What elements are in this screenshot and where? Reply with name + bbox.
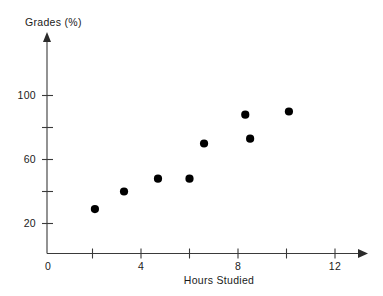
data-point-series	[91, 107, 293, 213]
x-axis-title: Hours Studied	[184, 274, 254, 286]
data-point	[246, 135, 254, 143]
data-point	[185, 175, 193, 183]
x-tick-label-8: 8	[235, 260, 241, 272]
data-point	[241, 111, 249, 119]
data-point	[120, 187, 128, 195]
chart-canvas: 100 60 20 0 4 8 12 Grades (%) Hours Stud…	[0, 0, 383, 296]
data-point	[200, 139, 208, 147]
data-point	[91, 205, 99, 213]
data-point	[285, 107, 293, 115]
y-tick-label-60: 60	[24, 153, 36, 165]
y-axis-arrowhead	[43, 32, 51, 42]
x-tick-label-12: 12	[329, 260, 341, 272]
y-axis-title: Grades (%)	[25, 16, 82, 28]
data-point	[154, 175, 162, 183]
scatter-plot-figure: 100 60 20 0 4 8 12 Grades (%) Hours Stud…	[0, 0, 383, 296]
x-axis-arrowhead	[358, 249, 368, 258]
y-tick-label-20: 20	[24, 217, 36, 229]
x-tick-label-4: 4	[138, 260, 144, 272]
y-tick-label-100: 100	[18, 89, 36, 101]
x-tick-label-0: 0	[45, 260, 51, 272]
